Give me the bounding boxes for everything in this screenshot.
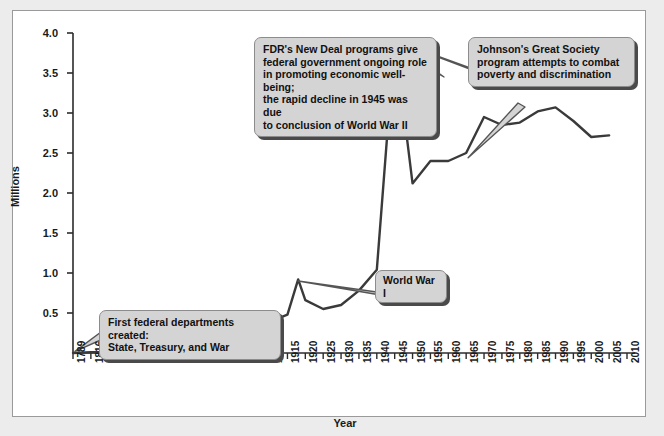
y-axis-tick-label: 3.5 (28, 68, 58, 79)
x-axis-tick-label: 1970 (488, 341, 498, 363)
y-axis-tick-label: 2.5 (28, 148, 58, 159)
annotation-world-war-i: World War I (375, 270, 447, 303)
x-axis-tick-label: 1789 (77, 341, 87, 363)
y-axis-tick-label: 0.5 (28, 308, 58, 319)
annotation-line: in promoting economic well-being; (263, 68, 428, 93)
annotation-line: federal government ongoing role (263, 56, 428, 69)
x-axis-tick-label: 2005 (613, 341, 623, 363)
x-axis-tick-label: 1955 (434, 341, 444, 363)
x-axis-tick-label: 1960 (452, 341, 462, 363)
x-axis-tick-label: 1995 (577, 341, 587, 363)
annotation-line: program attempts to combat (477, 56, 626, 69)
x-axis-tick-label: 1930 (345, 341, 355, 363)
x-axis-tick-label: 2000 (595, 341, 605, 363)
y-axis-ticks (67, 33, 73, 313)
chart-panel: 0.51.01.52.02.53.03.54.0 178918161821183… (12, 10, 646, 417)
annotation-fdr-new-deal: FDR's New Deal programs give federal gov… (254, 37, 437, 137)
x-axis-tick-label: 2010 (631, 341, 641, 363)
y-axis-title: Millions (9, 166, 21, 207)
annotation-line: First federal departments created: (108, 316, 272, 341)
y-axis-tick-label: 1.5 (28, 228, 58, 239)
x-axis-tick-label: 1985 (542, 341, 552, 363)
annotation-line: poverty and discrimination (477, 68, 626, 81)
x-axis-tick-label: 1920 (309, 341, 319, 363)
x-axis-title: Year (13, 417, 664, 429)
x-axis-tick-label: 1975 (506, 341, 516, 363)
y-axis-tick-label: 3.0 (28, 108, 58, 119)
x-axis-tick-label: 1915 (291, 341, 301, 363)
y-axis-tick-label: 4.0 (28, 28, 58, 39)
y-axis-tick-label: 2.0 (28, 188, 58, 199)
x-axis-tick-label: 1965 (470, 341, 480, 363)
annotation-line: FDR's New Deal programs give (263, 43, 428, 56)
x-axis-tick-label: 1925 (327, 341, 337, 363)
annotation-line: Johnson's Great Society (477, 43, 626, 56)
x-axis-tick-label: 1990 (560, 341, 570, 363)
annotation-line: World War I (383, 274, 439, 299)
x-axis-tick-label: 1945 (399, 341, 409, 363)
x-axis-tick-label: 1940 (381, 341, 391, 363)
annotation-johnson-great-society: Johnson's Great Society program attempts… (468, 37, 635, 87)
annotation-line: State, Treasury, and War (108, 341, 272, 354)
annotation-first-federal-departments: First federal departments created: State… (99, 310, 281, 360)
x-axis-tick-label: 1935 (363, 341, 373, 363)
y-axis-tick-label: 1.0 (28, 268, 58, 279)
annotation-line: the rapid decline in 1945 was due (263, 93, 428, 118)
annotation-line: to conclusion of World War II (263, 119, 428, 132)
x-axis-tick-label: 1950 (417, 341, 427, 363)
x-axis-tick-label: 1980 (524, 341, 534, 363)
screenshot-root: 0.51.01.52.02.53.03.54.0 178918161821183… (0, 0, 664, 436)
